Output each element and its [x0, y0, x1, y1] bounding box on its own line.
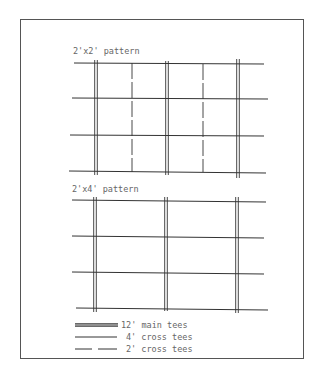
cross-tee-4ft — [70, 135, 264, 136]
ceiling-grid-diagram: 2'x2' pattern2'x4' pattern12' main tees4… — [0, 0, 313, 376]
cross-tee-4ft — [72, 98, 268, 99]
cross-tee-4ft — [72, 272, 264, 274]
cross-tee-4ft — [76, 308, 268, 310]
pattern-label: 2'x4' pattern — [72, 184, 139, 194]
cross-tee-4ft — [72, 200, 266, 202]
cross-tee-4ft — [74, 63, 264, 64]
legend-label: 4' cross tees — [126, 332, 193, 342]
pattern-label: 2'x2' pattern — [73, 46, 140, 56]
legend-label: 2' cross tees — [126, 344, 193, 354]
legend-label: 12' main tees — [121, 320, 188, 330]
cross-tee-4ft — [72, 236, 264, 238]
